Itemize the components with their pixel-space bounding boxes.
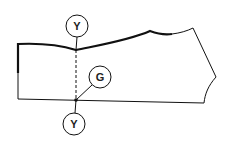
pattern-top-edge-thin: [172, 28, 193, 34]
g-leader-line: [76, 85, 92, 100]
marker-y-top-label: Y: [73, 20, 81, 32]
y-line-bottom: [75, 100, 76, 113]
intersection-dot: [74, 98, 78, 102]
marker-g: G: [89, 66, 111, 88]
marker-y-top: Y: [66, 15, 88, 37]
marker-y-bottom: Y: [63, 113, 85, 135]
y-line-top: [76, 37, 77, 50]
pattern-diagram: Y G Y: [0, 0, 233, 148]
marker-y-bottom-label: Y: [70, 118, 78, 130]
pattern-outline: [18, 28, 216, 103]
marker-g-label: G: [96, 71, 105, 83]
